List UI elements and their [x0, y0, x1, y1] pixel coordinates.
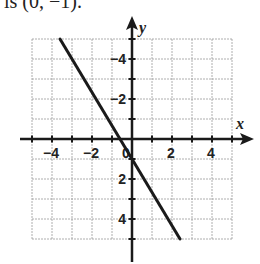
axes — [20, 16, 254, 262]
y-tick-label: −4 — [110, 51, 126, 67]
coordinate-plane-chart: −4−202442−2−4 x y — [0, 0, 260, 264]
y-tick-label: 4 — [118, 211, 126, 227]
x-tick-label: −2 — [83, 145, 99, 161]
x-tick-label: 2 — [167, 145, 175, 161]
y-tick-label: −2 — [110, 91, 126, 107]
x-tick-label: 4 — [207, 145, 215, 161]
y-axis-label: y — [137, 19, 147, 37]
y-tick-label: 2 — [118, 171, 126, 187]
x-tick-label: −4 — [43, 145, 59, 161]
x-axis-label: x — [235, 115, 244, 132]
